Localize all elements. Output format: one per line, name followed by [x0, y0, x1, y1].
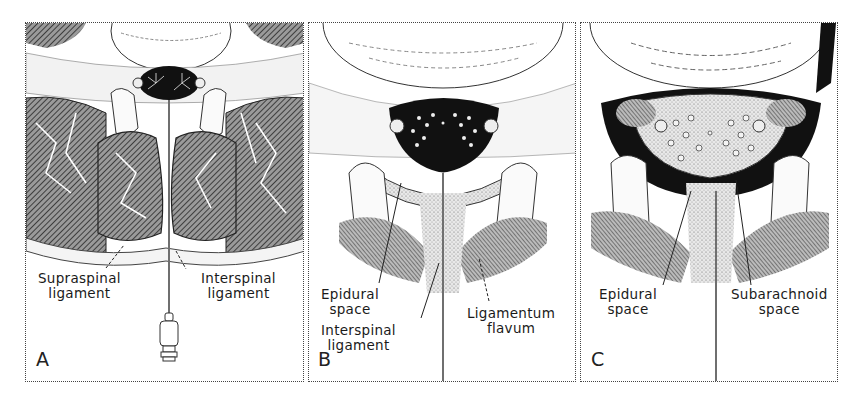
supraspinal-ligament-label: Supraspinal ligament: [38, 271, 121, 301]
epidural-space-label-c: Epidural space: [599, 287, 657, 317]
panel-letter-c: C: [591, 348, 604, 370]
epidural-space-label: Epidural space: [321, 287, 379, 317]
interspinal-ligament-label: Interspinal ligament: [201, 271, 276, 301]
subarachnoid-space-label: Subarachnoid space: [731, 287, 828, 317]
panel-letter-b: B: [318, 348, 331, 370]
ligamentum-flavum-label: Ligamentum flavum: [467, 306, 555, 336]
panel-a: Supraspinal ligament Interspinal ligamen…: [25, 22, 304, 382]
panel-b: Epidural space Interspinal ligament Liga…: [308, 22, 576, 382]
interspinal-ligament-label-b: Interspinal ligament: [321, 323, 396, 353]
panel-c: Epidural space Subarachnoid space C: [580, 22, 838, 382]
panel-letter-a: A: [36, 348, 49, 370]
spine-cross-section-illustration-c: [581, 23, 838, 382]
spine-cross-section-illustration-a: [26, 23, 304, 382]
